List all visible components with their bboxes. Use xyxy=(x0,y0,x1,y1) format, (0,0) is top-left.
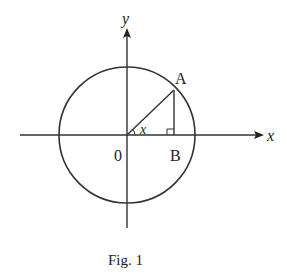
origin-label: 0 xyxy=(114,147,122,164)
right-angle-marker xyxy=(167,129,174,135)
point-a-label: A xyxy=(175,70,187,87)
figure-caption: Fig. 1 xyxy=(108,252,143,268)
radius-oa xyxy=(127,90,174,135)
angle-arc xyxy=(133,130,135,136)
y-axis-label: y xyxy=(120,10,130,28)
unit-circle-diagram: y x A B 0 x Fig. 1 xyxy=(0,0,287,280)
x-axis-label: x xyxy=(266,127,274,144)
point-b-label: B xyxy=(170,147,181,164)
angle-label: x xyxy=(139,122,147,137)
